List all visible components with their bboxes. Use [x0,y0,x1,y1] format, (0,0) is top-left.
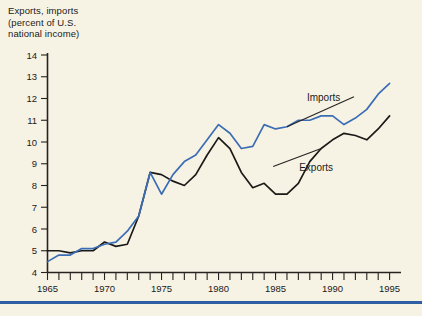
x-tick-label: 1970 [94,283,115,294]
series-label-exports: Exports [299,162,333,173]
x-tick-label: 1980 [208,283,229,294]
y-tick-label: 5 [32,245,37,256]
series-label-imports: Imports [307,92,340,103]
footer-rule [0,301,422,304]
line-chart: 4567891011121314 19651970197519801985199… [0,0,422,316]
x-tick-label: 1990 [322,283,343,294]
series-line-imports [48,83,390,261]
y-axis-ticks: 4567891011121314 [26,50,47,279]
series-line-exports [48,116,390,253]
y-tick-label: 4 [32,267,37,278]
y-tick-label: 12 [26,93,37,104]
x-tick-label: 1985 [265,283,286,294]
series-annotations: ImportsExports [273,92,354,173]
y-tick-label: 10 [26,137,37,148]
y-tick-label: 7 [32,202,37,213]
y-tick-label: 8 [32,180,37,191]
x-tick-label: 1975 [151,283,172,294]
y-tick-label: 9 [32,158,37,169]
x-tick-label: 1965 [37,283,58,294]
chart-page: Exports, imports (percent of U.S. nation… [0,0,422,316]
y-tick-label: 13 [26,71,37,82]
y-tick-label: 14 [26,50,37,61]
x-axis-ticks: 1965197019751980198519901995 [37,273,400,295]
series-lines [48,83,390,261]
y-tick-label: 11 [27,115,37,126]
y-tick-label: 6 [32,224,37,235]
x-tick-label: 1995 [379,283,400,294]
